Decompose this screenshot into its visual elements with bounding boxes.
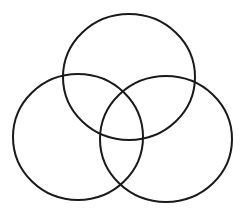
venn-circle-left	[13, 74, 143, 200]
venn-diagram-svg	[0, 0, 243, 210]
venn-diagram	[0, 0, 243, 210]
